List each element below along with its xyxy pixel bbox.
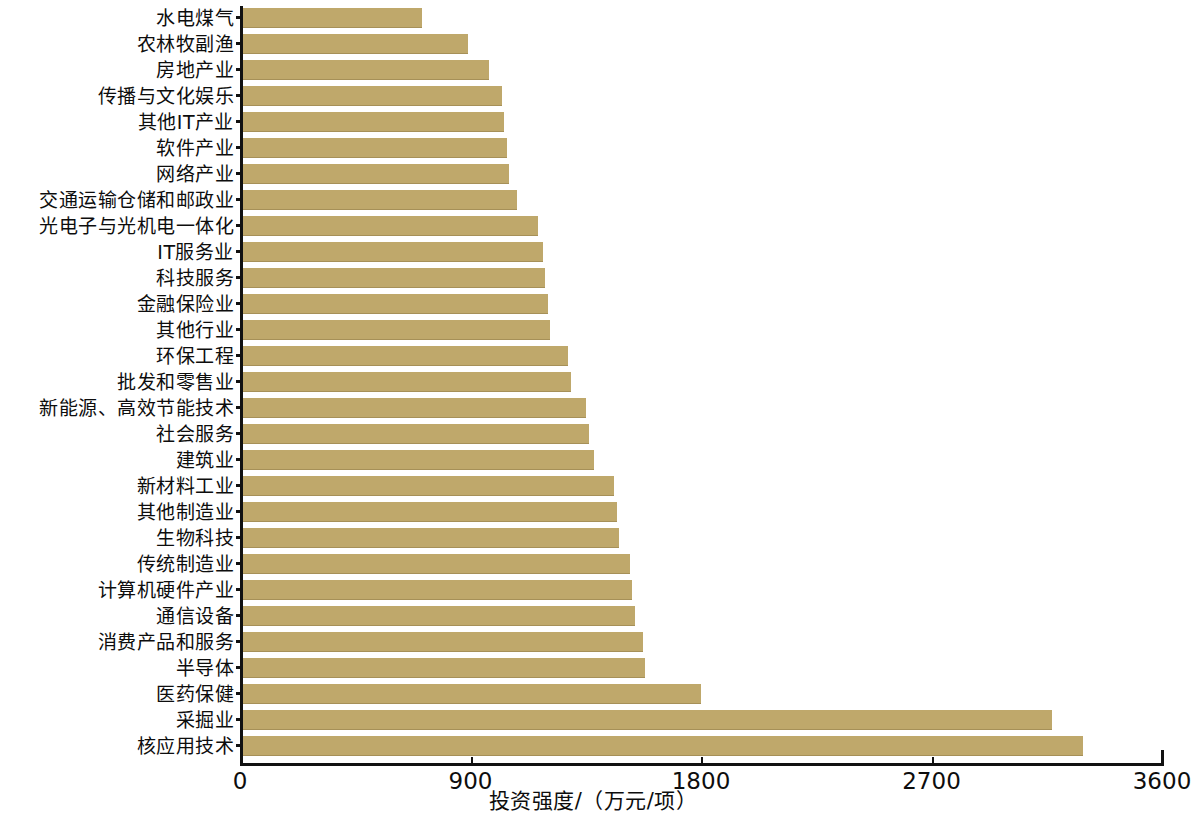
category-label: 传统制造业 <box>0 552 234 576</box>
category-label: 批发和零售业 <box>0 370 234 394</box>
y-axis-tick <box>236 354 241 357</box>
bar <box>243 112 504 132</box>
y-axis-tick <box>236 42 241 45</box>
category-label: 计算机硬件产业 <box>0 578 234 602</box>
bar-row: 金融保险业 <box>0 292 1186 318</box>
category-label: 光电子与光机电一体化 <box>0 214 234 238</box>
x-axis-tick <box>932 757 934 764</box>
category-label: 金融保险业 <box>0 292 234 316</box>
y-axis-tick <box>236 172 241 175</box>
category-label: 其他行业 <box>0 318 234 342</box>
category-label: 其他制造业 <box>0 500 234 524</box>
bar <box>243 216 538 236</box>
y-axis-tick <box>236 406 241 409</box>
category-label: 新材料工业 <box>0 474 234 498</box>
y-axis-tick <box>236 458 241 461</box>
category-label: 房地产业 <box>0 58 234 82</box>
category-label: 核应用技术 <box>0 734 234 758</box>
category-label: 水电煤气 <box>0 6 234 30</box>
bar-row: 核应用技术 <box>0 734 1186 760</box>
category-label: 交通运输仓储和邮政业 <box>0 188 234 212</box>
bar-row: 传播与文化娱乐 <box>0 84 1186 110</box>
bar <box>243 190 517 210</box>
category-label: IT服务业 <box>0 240 234 264</box>
y-axis-tick <box>236 510 241 513</box>
bar <box>243 710 1052 730</box>
category-label: 通信设备 <box>0 604 234 628</box>
y-axis-tick <box>236 666 241 669</box>
bar-row: 农林牧副渔 <box>0 32 1186 58</box>
bar <box>243 580 632 600</box>
category-label: 医药保健 <box>0 682 234 706</box>
bar <box>243 554 630 574</box>
bar-row: 批发和零售业 <box>0 370 1186 396</box>
bar-row: 社会服务 <box>0 422 1186 448</box>
bar <box>243 346 568 366</box>
y-axis-tick <box>236 640 241 643</box>
y-axis-tick <box>236 380 241 383</box>
bar-row: 通信设备 <box>0 604 1186 630</box>
y-axis-tick <box>236 224 241 227</box>
bar <box>243 606 635 626</box>
bar-row: 其他行业 <box>0 318 1186 344</box>
x-axis-tick <box>701 757 703 764</box>
y-axis-tick <box>236 68 241 71</box>
bar <box>243 476 614 496</box>
bar <box>243 450 594 470</box>
bar-row: 交通运输仓储和邮政业 <box>0 188 1186 214</box>
bar-row: IT服务业 <box>0 240 1186 266</box>
bar-row: 网络产业 <box>0 162 1186 188</box>
bar-row: 光电子与光机电一体化 <box>0 214 1186 240</box>
y-axis-tick <box>236 302 241 305</box>
category-label: 网络产业 <box>0 162 234 186</box>
bar <box>243 34 468 54</box>
bar <box>243 242 543 262</box>
y-axis-tick <box>236 692 241 695</box>
category-label: 农林牧副渔 <box>0 32 234 56</box>
bar <box>243 658 645 678</box>
category-label: 消费产品和服务 <box>0 630 234 654</box>
bar <box>243 372 571 392</box>
x-axis-end-cap <box>1161 750 1164 766</box>
bar <box>243 736 1083 756</box>
y-axis-tick <box>236 16 241 19</box>
bar-row: 其他IT产业 <box>0 110 1186 136</box>
category-label: 软件产业 <box>0 136 234 160</box>
bar-row: 房地产业 <box>0 58 1186 84</box>
bar <box>243 60 489 80</box>
category-label: 采掘业 <box>0 708 234 732</box>
x-axis-title: 投资强度/（万元/项） <box>0 788 1186 814</box>
y-axis-tick <box>236 562 241 565</box>
y-axis-tick <box>236 536 241 539</box>
bar-row: 医药保健 <box>0 682 1186 708</box>
bar <box>243 528 619 548</box>
y-axis-tick <box>236 614 241 617</box>
bar-row: 传统制造业 <box>0 552 1186 578</box>
bar <box>243 86 502 106</box>
category-label: 传播与文化娱乐 <box>0 84 234 108</box>
y-axis-tick <box>236 328 241 331</box>
y-axis-tick <box>236 588 241 591</box>
y-axis-tick <box>236 198 241 201</box>
y-axis-tick <box>236 94 241 97</box>
y-axis-tick <box>236 120 241 123</box>
bar-row: 建筑业 <box>0 448 1186 474</box>
bar <box>243 684 701 704</box>
bar <box>243 320 550 340</box>
y-axis-tick <box>236 146 241 149</box>
bar-row: 环保工程 <box>0 344 1186 370</box>
category-label: 新能源、高效节能技术 <box>0 396 234 420</box>
category-label: 半导体 <box>0 656 234 680</box>
category-label: 科技服务 <box>0 266 234 290</box>
y-axis-tick <box>236 276 241 279</box>
x-axis-tick <box>471 757 473 764</box>
bar <box>243 8 422 28</box>
y-axis-tick <box>236 744 241 747</box>
bar-row: 新材料工业 <box>0 474 1186 500</box>
bar-row: 半导体 <box>0 656 1186 682</box>
category-label: 其他IT产业 <box>0 110 234 134</box>
bar-row: 消费产品和服务 <box>0 630 1186 656</box>
category-label: 社会服务 <box>0 422 234 446</box>
bar <box>243 502 617 522</box>
